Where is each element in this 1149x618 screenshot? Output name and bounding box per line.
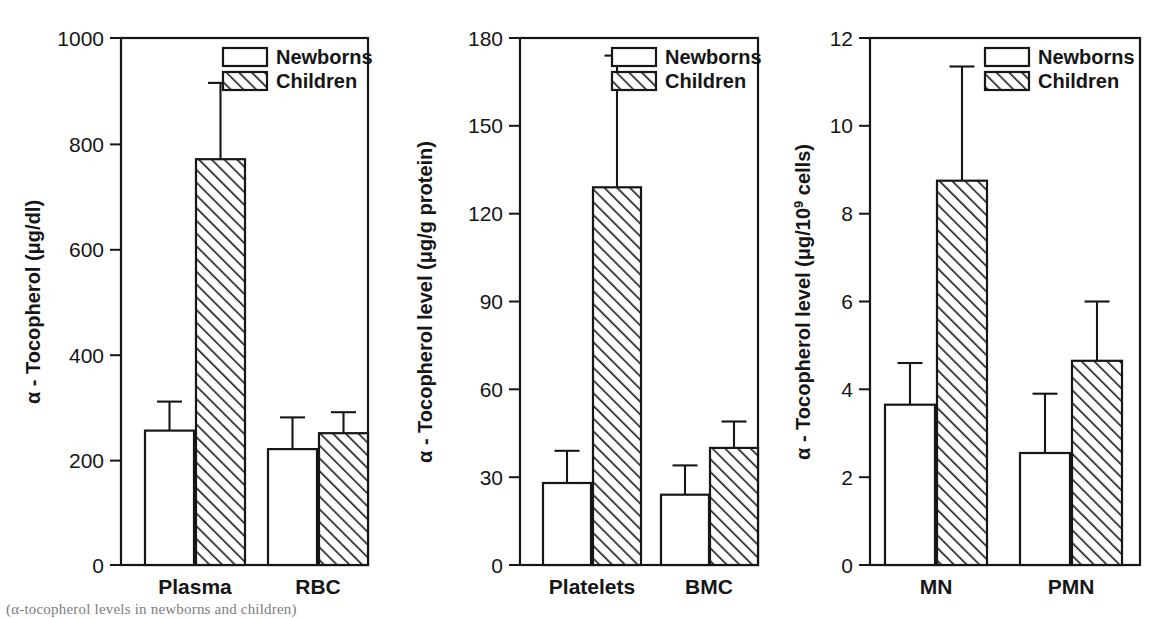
y-tick-label: 600 (69, 238, 104, 261)
svg-text:α - Tocopherol level (μg/109 c: α - Tocopherol level (μg/109 cells) (791, 144, 814, 460)
y-axis-ticks-middle (509, 38, 520, 565)
legend-swatch-newborns (223, 48, 267, 66)
legend-label-children: Children (1038, 70, 1119, 92)
chart-svg-left: 1000 800 600 400 200 0 α - Tocopherol (μ… (0, 0, 390, 618)
bar-bmc-children (710, 448, 758, 565)
legend-left: Newborns Children (223, 46, 373, 92)
y-axis-title-text: α - Tocopherol (μg/dl) (22, 200, 44, 404)
legend-swatch-newborns (612, 48, 656, 66)
caption-remnant-text: (α-tocopherol levels in newborns and chi… (6, 604, 297, 618)
bar-rbc-children (319, 433, 368, 565)
y-tick-label: 30 (480, 466, 503, 489)
y-tick-labels-left: 1000 800 600 400 200 0 (57, 27, 104, 577)
bar-platelets-newborns (543, 483, 591, 565)
y-tick-label: 800 (69, 133, 104, 156)
y-tick-label: 90 (480, 290, 503, 313)
chart-svg-middle: 180 150 120 90 60 30 0 α - Tocopherol le… (390, 0, 770, 618)
x-category-label: PMN (1048, 575, 1095, 598)
y-tick-label: 6 (841, 290, 853, 313)
y-axis-ticks-left (110, 38, 121, 565)
bars-right (885, 181, 1122, 565)
legend-label-newborns: Newborns (276, 46, 373, 68)
error-bars-middle (555, 56, 747, 495)
y-tick-label: 4 (841, 378, 853, 401)
legend-swatch-children (985, 72, 1029, 90)
bars-left (145, 159, 368, 565)
legend-swatch-children (223, 72, 267, 90)
bar-pmn-children (1072, 361, 1122, 565)
y-tick-label: 0 (841, 554, 853, 577)
legend-middle: Newborns Children (612, 46, 762, 92)
y-tick-label: 12 (830, 27, 853, 50)
svg-text:α - Tocopherol level (μg/g pro: α - Tocopherol level (μg/g protein) (414, 141, 436, 463)
y-axis-title-middle: α - Tocopherol level (μg/g protein) (414, 141, 436, 463)
y-tick-label: 8 (841, 202, 853, 225)
y-axis-title-suffix: cells) (792, 144, 814, 201)
y-tick-labels-middle: 180 150 120 90 60 30 0 (468, 27, 503, 577)
x-category-labels-middle: Platelets BMC (549, 575, 733, 598)
y-tick-label: 2 (841, 466, 853, 489)
y-tick-label: 0 (491, 554, 503, 577)
y-axis-title-right: α - Tocopherol level (μg/109 cells) (791, 144, 814, 460)
bar-rbc-newborns (268, 449, 317, 565)
error-bars-left (157, 83, 356, 449)
y-tick-label: 200 (69, 449, 104, 472)
y-tick-label: 120 (468, 202, 503, 225)
legend-label-newborns: Newborns (665, 46, 762, 68)
x-category-labels-right: MN PMN (920, 575, 1095, 598)
caption-remnant: (α-tocopherol levels in newborns and chi… (0, 604, 1149, 618)
legend-swatch-newborns (985, 48, 1029, 66)
legend-label-children: Children (665, 70, 746, 92)
x-category-label: MN (920, 575, 953, 598)
figure-root: 1000 800 600 400 200 0 α - Tocopherol (μ… (0, 0, 1149, 618)
y-tick-label: 180 (468, 27, 503, 50)
x-category-labels-left: Plasma RBC (158, 575, 341, 598)
y-axis-title-prefix: α - Tocopherol level (μg/10 (792, 208, 814, 460)
bar-mn-newborns (885, 405, 935, 565)
y-axis-title-superscript: 9 (791, 201, 806, 208)
y-tick-label: 0 (92, 554, 104, 577)
bars-middle (543, 187, 758, 565)
chart-panel-plasma-rbc: 1000 800 600 400 200 0 α - Tocopherol (μ… (0, 0, 390, 618)
legend-swatch-children (612, 72, 656, 90)
bar-platelets-children (593, 187, 641, 565)
legend-right: Newborns Children (985, 46, 1135, 92)
x-category-label: Platelets (549, 575, 635, 598)
x-category-label: Plasma (158, 575, 232, 598)
chart-panel-mn-pmn: 12 10 8 6 4 2 0 α - Tocopherol level (μg… (770, 0, 1149, 618)
x-category-label: BMC (685, 575, 733, 598)
legend-label-newborns: Newborns (1038, 46, 1135, 68)
svg-text:α - Tocopherol (μg/dl): α - Tocopherol (μg/dl) (22, 200, 44, 404)
y-tick-label: 1000 (57, 27, 104, 50)
chart-svg-right: 12 10 8 6 4 2 0 α - Tocopherol level (μg… (770, 0, 1149, 618)
x-category-label: RBC (295, 575, 341, 598)
chart-panel-platelets-bmc: 180 150 120 90 60 30 0 α - Tocopherol le… (390, 0, 770, 618)
bar-plasma-newborns (145, 431, 194, 565)
bar-plasma-children (196, 159, 245, 565)
y-tick-labels-right: 12 10 8 6 4 2 0 (830, 27, 854, 577)
y-tick-label: 400 (69, 344, 104, 367)
y-axis-title-left: α - Tocopherol (μg/dl) (22, 200, 44, 404)
y-axis-title-text: α - Tocopherol level (μg/g protein) (414, 141, 436, 463)
y-tick-label: 150 (468, 114, 503, 137)
bar-bmc-newborns (661, 495, 709, 565)
y-tick-label: 60 (480, 378, 503, 401)
y-tick-label: 10 (830, 114, 853, 137)
bar-mn-children (937, 181, 987, 565)
legend-label-children: Children (276, 70, 357, 92)
bar-pmn-newborns (1020, 453, 1070, 565)
y-axis-ticks-right (859, 38, 870, 565)
